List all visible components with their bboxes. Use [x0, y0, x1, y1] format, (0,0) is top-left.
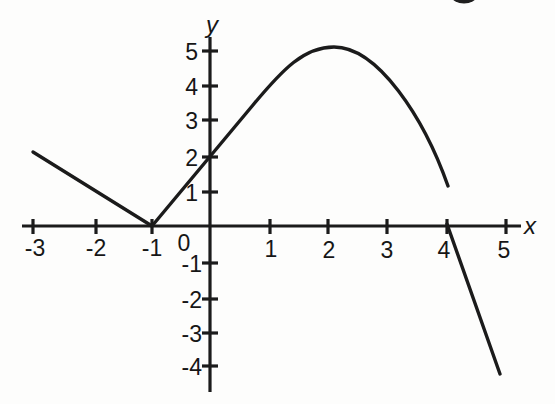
scan-artifact — [452, 0, 476, 4]
y-axis-label: y — [204, 11, 220, 38]
x-tick-label-m3: -3 — [25, 235, 45, 261]
x-tick-label-1: 1 — [265, 236, 278, 262]
x-tick-label-3: 3 — [381, 237, 394, 263]
x-tick-label-m1: -1 — [142, 235, 162, 261]
graph-figure: -3 -2 -1 1 2 3 4 5 0 5 4 3 2 1 -1 -2 -3 … — [0, 0, 555, 404]
x-tick-label-m2: -2 — [86, 235, 106, 261]
y-tick-label-m4: -4 — [182, 354, 203, 380]
x-axis-label: x — [523, 212, 537, 239]
y-tick-labels: 5 4 3 2 1 -1 -2 -3 -4 — [182, 39, 203, 380]
x-tick-labels: -3 -2 -1 1 2 3 4 5 0 — [25, 230, 511, 263]
y-tick-label-2: 2 — [185, 145, 198, 171]
y-tick-label-4: 4 — [185, 74, 198, 100]
y-tick-label-5: 5 — [185, 39, 198, 65]
x-tick-label-4: 4 — [438, 237, 451, 263]
y-tick-label-m1: -1 — [182, 251, 202, 277]
y-tick-label-3: 3 — [185, 108, 198, 134]
graph-svg: -3 -2 -1 1 2 3 4 5 0 5 4 3 2 1 -1 -2 -3 … — [0, 0, 555, 404]
curve-left-segment — [33, 152, 152, 226]
x-tick-label-5: 5 — [498, 237, 511, 263]
x-tick-label-2: 2 — [323, 237, 336, 263]
curve-right-segment — [447, 224, 500, 374]
axes — [22, 37, 521, 392]
function-curve — [33, 47, 500, 374]
y-tick-label-m2: -2 — [182, 287, 202, 313]
y-tick-label-m3: -3 — [182, 321, 202, 347]
